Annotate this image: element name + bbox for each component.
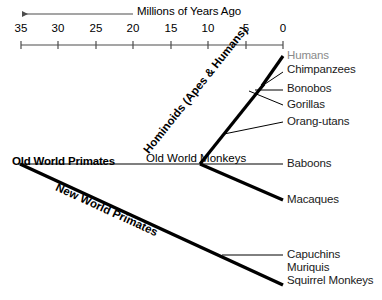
taxon-label-muriquis: Muriquis xyxy=(287,261,329,273)
taxon-label-gorillas: Gorillas xyxy=(287,98,325,110)
taxon-label-orangutans: Orang-utans xyxy=(287,115,349,127)
taxon-label-capuchins: Capuchins xyxy=(287,248,340,260)
taxon-label-humans: Humans xyxy=(287,49,329,61)
taxon-label-baboons: Baboons xyxy=(287,157,331,169)
clade-label-old-world-primates: Old World Primates xyxy=(12,155,115,167)
phylogenetic-tree-figure: Millions of Years Ago 35 30 25 20 15 10 … xyxy=(0,0,382,300)
clade-label-old-world-monkeys: Old World Monkeys xyxy=(146,152,246,164)
taxon-label-bonobos: Bonobos xyxy=(287,82,331,94)
taxon-label-chimpanzees: Chimpanzees xyxy=(287,63,356,75)
branch-macaques xyxy=(200,164,283,200)
taxon-label-squirrel-monkeys: Squirrel Monkeys xyxy=(287,274,373,286)
branch-humans-chimpanzees xyxy=(262,56,283,86)
taxon-label-macaques: Macaques xyxy=(287,193,339,205)
